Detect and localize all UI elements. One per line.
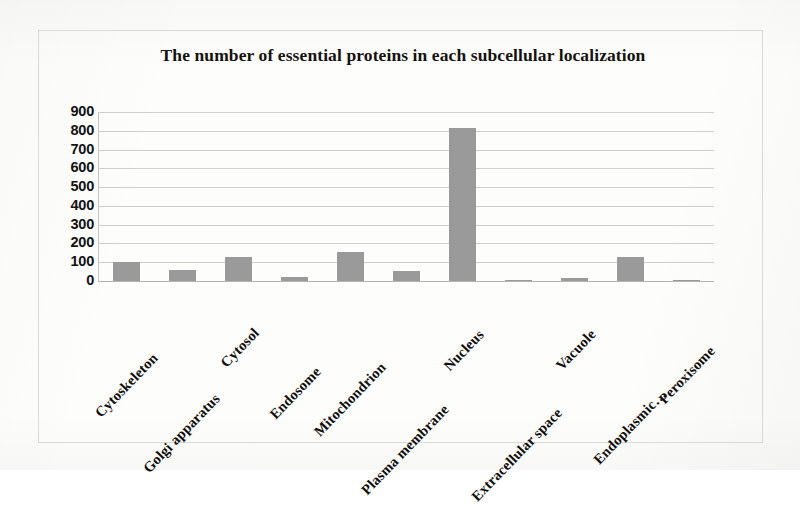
y-tick-label-400: 400 xyxy=(52,198,94,213)
bar-cytoskeleton[interactable] xyxy=(113,262,140,281)
chart-title: The number of essential proteins in each… xyxy=(78,44,728,67)
bar-mitochondrion[interactable] xyxy=(337,252,364,281)
bar-extracellular-space[interactable] xyxy=(505,280,532,281)
x-tick-label-endosome: Endosome xyxy=(266,364,324,423)
y-tick-label-600: 600 xyxy=(52,160,94,175)
bar-cytosol[interactable] xyxy=(225,257,252,281)
bar-vacuole[interactable] xyxy=(561,278,588,281)
x-tick-label-cytosol: Cytosol xyxy=(217,325,263,371)
axis-baseline xyxy=(98,281,714,282)
bar-nucleus[interactable] xyxy=(449,128,476,281)
bar-golgi-apparatus[interactable] xyxy=(169,270,196,281)
y-tick-label-100: 100 xyxy=(52,254,94,269)
bar-plasma-membrane[interactable] xyxy=(393,271,420,281)
y-tick-label-300: 300 xyxy=(52,217,94,232)
bar-series xyxy=(98,112,714,281)
bar-endosome[interactable] xyxy=(281,277,308,281)
y-tick-label-900: 900 xyxy=(52,104,94,119)
y-tick-label-200: 200 xyxy=(52,235,94,250)
bar-peroxisome[interactable] xyxy=(673,280,700,281)
y-tick-label-800: 800 xyxy=(52,123,94,138)
bar-endoplasmic[interactable] xyxy=(617,257,644,281)
x-tick-label-cytoskeleton: Cytoskeleton xyxy=(92,350,162,421)
x-tick-label-vacuole: Vacuole xyxy=(553,326,600,374)
x-tick-label-nucleus: Nucleus xyxy=(440,326,487,374)
x-axis-category-labels: CytoskeletonGolgi apparatusCytosolEndoso… xyxy=(0,284,800,414)
y-axis-tick-labels: 9008007006005004003002001000 xyxy=(52,103,94,293)
y-tick-label-500: 500 xyxy=(52,179,94,194)
x-tick-label-peroxisome: Peroxisome xyxy=(655,343,718,408)
y-tick-label-700: 700 xyxy=(52,142,94,157)
